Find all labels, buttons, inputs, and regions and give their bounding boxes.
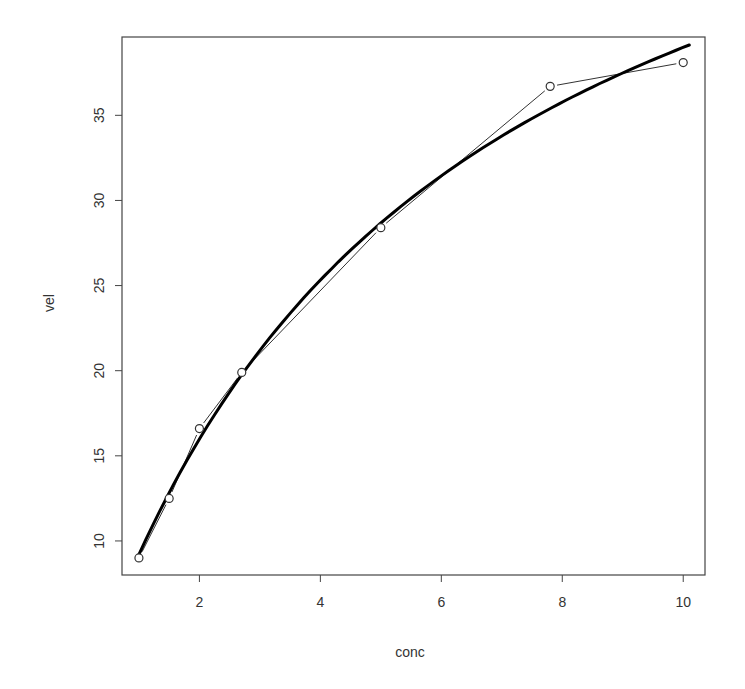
connecting-segment (204, 378, 238, 423)
x-tick-label: 4 (316, 594, 324, 610)
data-point (135, 554, 143, 562)
data-point (165, 494, 173, 502)
y-axis-label: vel (41, 294, 57, 312)
x-tick-label: 6 (437, 594, 445, 610)
y-tick-label: 35 (91, 107, 107, 123)
plot-frame (122, 37, 705, 575)
y-tick-label: 10 (91, 533, 107, 549)
x-axis: 246810 (196, 575, 692, 610)
chart: 101520253035 246810 conc vel (0, 0, 745, 689)
x-tick-label: 10 (675, 594, 691, 610)
connecting-segment (247, 233, 376, 368)
y-tick-label: 15 (91, 448, 107, 464)
data-point (679, 59, 687, 67)
fitted-curve (139, 45, 689, 555)
data-point (546, 82, 554, 90)
data-point (377, 224, 385, 232)
observed-points (135, 59, 687, 562)
y-tick-label: 20 (91, 363, 107, 379)
y-tick-label: 30 (91, 192, 107, 208)
y-axis: 101520253035 (91, 107, 122, 548)
x-axis-label: conc (395, 644, 425, 660)
observed-connecting-lines (142, 64, 676, 552)
connecting-segment (386, 91, 545, 223)
data-point (238, 368, 246, 376)
connecting-segment (142, 505, 166, 552)
data-point (195, 425, 203, 433)
y-tick-label: 25 (91, 278, 107, 294)
x-tick-label: 8 (558, 594, 566, 610)
x-tick-label: 2 (196, 594, 204, 610)
